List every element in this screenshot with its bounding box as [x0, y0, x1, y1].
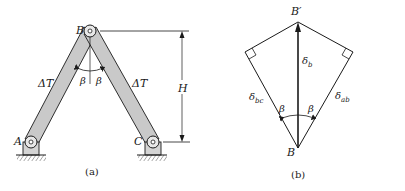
- point-label-b-prime: B′: [290, 5, 302, 18]
- joint-label-c: C: [134, 135, 143, 148]
- caption-b: (b): [291, 169, 305, 180]
- angle-beta-left-b: β: [278, 103, 285, 114]
- vector-label-delta-b: δ b: [302, 55, 313, 69]
- member-bc-delta-t-label: ΔT: [131, 77, 149, 90]
- angle-beta-right-b: β: [307, 103, 314, 114]
- caption-a: (a): [85, 166, 99, 177]
- vector-label-delta-ab: δ ab: [335, 90, 350, 104]
- angle-beta-right-a: β: [95, 75, 102, 86]
- svg-text:ab: ab: [341, 96, 350, 104]
- truss-diagram: B A C ΔT ΔT β β H (a) B′ B δ b δ: [0, 0, 405, 191]
- angle-beta-left-a: β: [79, 75, 86, 86]
- member-ab: [25, 27, 96, 146]
- member-bc: [84, 27, 159, 146]
- member-ab-delta-t-label: ΔT: [37, 77, 55, 90]
- dimension-h-label: H: [177, 82, 188, 95]
- figure-b: B′ B δ b δ bc δ ab β β (b): [245, 5, 353, 180]
- joint-label-b: B: [75, 24, 84, 37]
- pin-b: [84, 25, 96, 37]
- displacement-diagram-outline: [245, 22, 353, 148]
- joint-label-a: A: [13, 135, 22, 148]
- figure-a: B A C ΔT ΔT β β H (a): [13, 24, 190, 177]
- svg-text:bc: bc: [255, 97, 263, 105]
- vector-label-delta-bc: δ bc: [249, 91, 263, 105]
- point-label-b: B: [286, 146, 295, 159]
- svg-text:b: b: [308, 61, 313, 69]
